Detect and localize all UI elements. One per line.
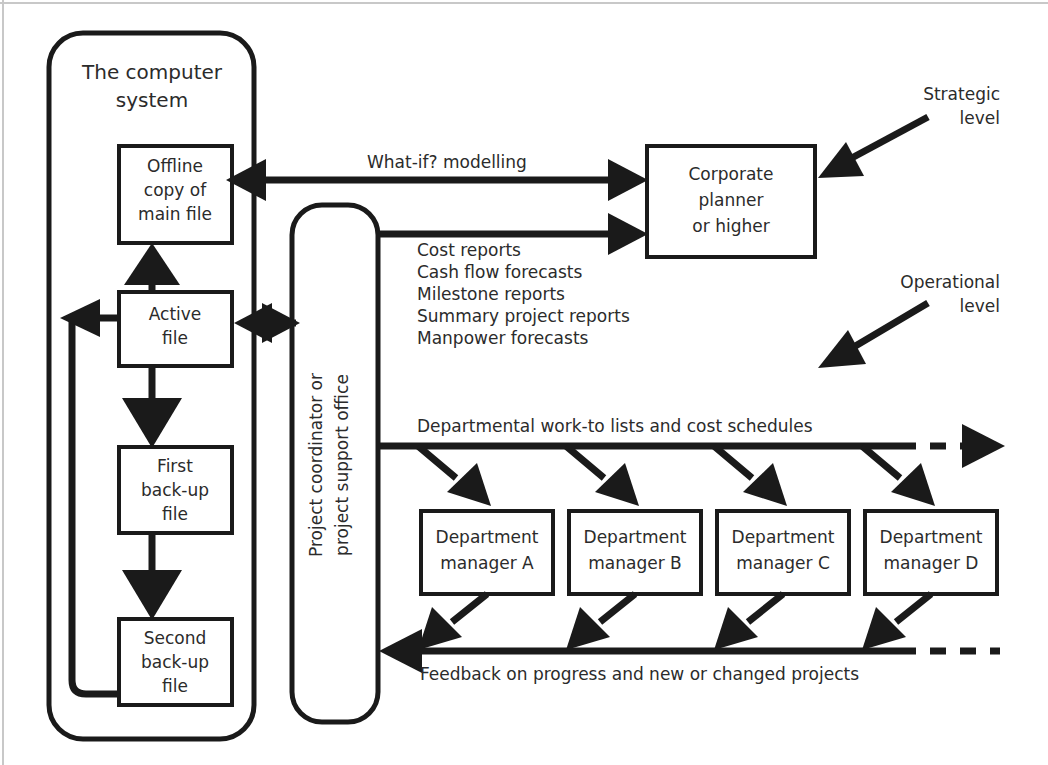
feedback-from-dept-b-line bbox=[600, 594, 635, 622]
branch-to-dept-a-line bbox=[418, 446, 456, 478]
strategic-level-arrowhead-icon bbox=[818, 142, 864, 178]
operational-level-arrowhead-icon bbox=[818, 330, 866, 368]
information-flow-diagram: Offline copy of main file Active file Fi… bbox=[0, 0, 1048, 765]
dept-b-line2: manager B bbox=[588, 553, 681, 573]
strategic-level-line1: Strategic bbox=[923, 84, 1000, 104]
feedback-from-dept-c-line bbox=[748, 594, 783, 622]
feedback-from-dept-d-line bbox=[896, 594, 931, 622]
coordinator-label-line2: project support office bbox=[332, 374, 352, 556]
feedback-dept-a-arrowhead-icon bbox=[418, 607, 462, 650]
branch-to-dept-b-line bbox=[566, 446, 604, 478]
work-to-lists-label: Departmental work-to lists and cost sche… bbox=[417, 416, 813, 436]
branch-to-dept-b-arrowhead-icon bbox=[595, 463, 639, 506]
strategic-level-line2: level bbox=[960, 108, 1000, 128]
branch-to-dept-a-arrowhead-icon bbox=[447, 463, 491, 506]
first-backup-line2: back-up bbox=[141, 480, 209, 500]
feedback-from-dept-a-line bbox=[452, 594, 487, 622]
feedback-end-arrowhead-icon bbox=[379, 629, 422, 673]
second-backup-line2: back-up bbox=[141, 652, 209, 672]
report-item-1: Cash flow forecasts bbox=[417, 262, 582, 282]
feedback-dept-c-arrowhead-icon bbox=[714, 607, 758, 650]
report-item-4: Manpower forecasts bbox=[417, 328, 589, 348]
diagram-canvas: Offline copy of main file Active file Fi… bbox=[0, 0, 1048, 765]
reports-arrowhead-icon bbox=[608, 213, 648, 255]
coordinator-label-line1: Project coordinator or bbox=[306, 373, 326, 557]
active-file-line1: Active bbox=[149, 304, 202, 324]
dept-c-line1: Department bbox=[732, 527, 835, 547]
second-backup-line3: file bbox=[162, 676, 188, 696]
report-item-0: Cost reports bbox=[417, 240, 521, 260]
work-to-lists-end-arrowhead-icon bbox=[962, 424, 1005, 468]
dept-b-line1: Department bbox=[584, 527, 687, 547]
strategic-level-pointer-line bbox=[848, 117, 928, 160]
branch-to-dept-c-arrowhead-icon bbox=[743, 463, 787, 506]
what-if-right-arrowhead-icon bbox=[608, 159, 648, 201]
second-backup-line1: Second bbox=[144, 628, 207, 648]
dept-a-line1: Department bbox=[436, 527, 539, 547]
dept-a-line2: manager A bbox=[440, 553, 534, 573]
offline-copy-line2: copy of bbox=[144, 180, 207, 200]
feedback-dept-b-arrowhead-icon bbox=[566, 607, 610, 650]
feedback-dept-d-arrowhead-icon bbox=[862, 607, 906, 650]
active-file-line2: file bbox=[162, 328, 188, 348]
offline-copy-line1: Offline bbox=[147, 156, 203, 176]
dept-c-line2: manager C bbox=[736, 553, 830, 573]
branch-to-dept-d-arrowhead-icon bbox=[891, 463, 935, 506]
report-item-2: Milestone reports bbox=[417, 284, 565, 304]
first-backup-line1: First bbox=[157, 456, 193, 476]
operational-level-pointer-line bbox=[852, 303, 928, 348]
corporate-planner-line1: Corporate bbox=[689, 164, 774, 184]
report-item-3: Summary project reports bbox=[417, 306, 630, 326]
what-if-modelling-label: What-if? modelling bbox=[367, 152, 527, 172]
offline-copy-line3: main file bbox=[138, 204, 212, 224]
computer-system-label-line1: The computer bbox=[81, 60, 223, 84]
branch-to-dept-d-line bbox=[862, 446, 900, 478]
dept-d-line1: Department bbox=[880, 527, 983, 547]
corporate-planner-line3: or higher bbox=[692, 216, 769, 236]
corporate-planner-line2: planner bbox=[699, 190, 764, 210]
dept-d-line2: manager D bbox=[884, 553, 979, 573]
operational-level-line2: level bbox=[960, 296, 1000, 316]
operational-level-line1: Operational bbox=[900, 272, 1000, 292]
feedback-label: Feedback on progress and new or changed … bbox=[420, 664, 859, 684]
computer-system-label-line2: system bbox=[116, 88, 188, 112]
branch-to-dept-c-line bbox=[714, 446, 752, 478]
first-backup-line3: file bbox=[162, 504, 188, 524]
